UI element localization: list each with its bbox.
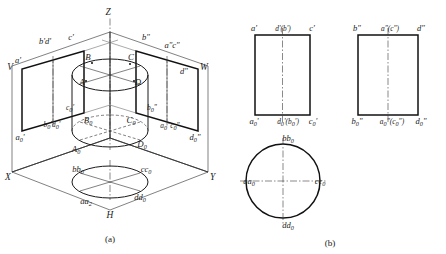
svg-text:d": d" (180, 66, 188, 76)
w-label-a0c0-dprime: a0"c0" (160, 121, 180, 131)
w-label-ac-dprime: a"c" (164, 40, 180, 50)
cylinder-label-D: D (134, 77, 142, 87)
front-top-right-label: c' (309, 23, 315, 33)
axis-label-z: Z (105, 7, 111, 17)
v-label-bd-prime: b'd' (39, 36, 51, 46)
svg-text:a"c": a"c" (164, 40, 180, 50)
point-marker-A (85, 80, 87, 82)
panel-a-caption: (a) (105, 234, 115, 244)
cylinder-label-C: C (128, 52, 134, 62)
w-label-d-dprime: d" (180, 66, 188, 76)
svg-text:b'd': b'd' (39, 36, 51, 46)
side-top-right-label: d" (417, 23, 425, 33)
point-marker-B (91, 62, 93, 64)
front-top-mid-label: d'(b') (275, 24, 291, 33)
cylinder-label-A: A (78, 77, 85, 87)
svg-text:a"(c"): a"(c") (381, 24, 400, 33)
w-label-b-dprime: b" (142, 32, 150, 42)
svg-text:a0"c0": a0"c0" (160, 121, 180, 131)
svg-text:d0'(b0'): d0'(b0') (277, 117, 299, 127)
front-top-left-label: a' (251, 23, 257, 33)
point-marker-C (129, 63, 131, 65)
v-label-b0d0-prime: b0'd0' (44, 120, 61, 130)
plane-label-h: H (106, 210, 115, 220)
side-top-mid-label: a"(c") (381, 24, 400, 33)
svg-text:b0'd0': b0'd0' (44, 120, 61, 130)
technical-drawing-svg: Z X Y V W H (0, 0, 446, 254)
v-label-a-prime: a' (15, 55, 21, 65)
panel-b-caption: (b) (325, 238, 336, 248)
figure-root: Z X Y V W H (0, 0, 446, 254)
plane-label-w: W (200, 62, 209, 72)
front-bottom-mid-label: d0'(b0') (277, 117, 299, 127)
svg-text:d'(b'): d'(b') (275, 24, 291, 33)
canvas-background (0, 0, 446, 254)
cylinder-label-B: B (85, 52, 91, 62)
v-label-c-prime: c' (68, 32, 74, 42)
side-top-left-label: b" (353, 23, 361, 33)
